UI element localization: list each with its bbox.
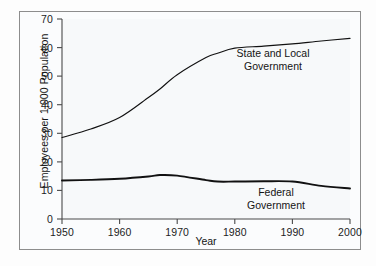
y-axis-ticks	[57, 19, 62, 219]
y-axis-label-wrapper: Employees per 1,000 Population	[34, 6, 52, 216]
y-axis-label: Employees per 1,000 Population	[38, 34, 50, 189]
annotation-state-and-local-government: State and Local Government	[218, 47, 328, 73]
annotation-federal-line-1: Federal	[228, 186, 324, 199]
annotation-state-line-1: State and Local	[218, 47, 328, 60]
annotation-state-line-2: Government	[218, 60, 328, 73]
annotation-federal-line-2: Government	[228, 199, 324, 212]
annotation-federal-government: Federal Government	[228, 186, 324, 212]
x-axis-ticks	[62, 219, 350, 224]
x-axis-label: Year	[62, 235, 350, 247]
chart-screenshot: 70 60 50 40 30 20 10 0 1950 1960 1970 19…	[0, 0, 376, 266]
